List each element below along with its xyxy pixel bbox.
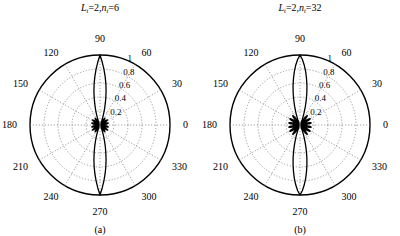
- panel-b-angle-label-0: 0: [383, 119, 388, 130]
- panel-a-grid-spoke-210: [39, 125, 100, 160]
- panel-a-caption: (a): [0, 224, 200, 235]
- panel-b-angle-label-150: 150: [213, 78, 228, 89]
- panel-b-angle-label-210: 210: [213, 161, 228, 172]
- panel-a-angle-label-60: 60: [142, 47, 152, 58]
- panel-a-angle-label-240: 240: [44, 191, 59, 202]
- panel-b-radial-label-0.2: 0.2: [310, 107, 321, 117]
- panel-a-radial-label-0.4: 0.4: [115, 93, 127, 103]
- panel-b: Lt=2,nt=32 03060901201501802102402703003…: [200, 0, 400, 236]
- panel-a-grid-spoke-330: [100, 125, 161, 160]
- panel-a-radial-label-0.2: 0.2: [110, 107, 121, 117]
- panel-a-radial-label-0.6: 0.6: [119, 80, 131, 90]
- panel-a-angle-label-0: 0: [183, 119, 188, 130]
- panel-a-radial-label-0.8: 0.8: [123, 67, 135, 77]
- panel-b-angle-label-330: 330: [372, 161, 387, 172]
- panel-a: Lt=2,nt=6 030609012015018021024027030033…: [0, 0, 200, 236]
- panel-a-polar-plot: 03060901201501802102402703003300.20.40.6…: [0, 18, 200, 218]
- panel-b-radial-label-1: 1: [328, 53, 333, 63]
- panel-b-angle-label-300: 300: [342, 191, 357, 202]
- panel-b-angle-label-60: 60: [342, 47, 352, 58]
- panel-a-angle-label-330: 330: [172, 161, 187, 172]
- panel-a-polar-svg: 03060901201501802102402703003300.20.40.6…: [0, 18, 200, 218]
- panel-a-angle-label-30: 30: [172, 78, 182, 89]
- panel-b-angle-label-90: 90: [295, 33, 305, 44]
- panel-b-angle-label-30: 30: [372, 78, 382, 89]
- figure-polar-beampatterns: Lt=2,nt=6 030609012015018021024027030033…: [0, 0, 400, 236]
- panel-a-angle-label-150: 150: [13, 78, 28, 89]
- panel-b-angle-label-120: 120: [244, 47, 259, 58]
- panel-b-radial-label-0.4: 0.4: [315, 93, 327, 103]
- panel-a-angle-label-210: 210: [13, 161, 28, 172]
- panel-b-angle-label-270: 270: [293, 206, 308, 217]
- panel-a-grid-spoke-30: [100, 90, 161, 125]
- panel-b-polar-svg: 03060901201501802102402703003300.20.40.6…: [200, 18, 400, 218]
- panel-a-grid-spoke-150: [39, 90, 100, 125]
- panel-a-angle-label-270: 270: [93, 206, 108, 217]
- panel-a-angle-label-90: 90: [95, 33, 105, 44]
- panel-b-polar-plot: 03060901201501802102402703003300.20.40.6…: [200, 18, 400, 218]
- panel-a-angle-label-180: 180: [2, 119, 17, 130]
- panel-b-angle-label-240: 240: [244, 191, 259, 202]
- panel-a-angle-label-300: 300: [142, 191, 157, 202]
- panel-a-radial-label-1: 1: [128, 53, 133, 63]
- panel-b-title-text: Lt=2,nt=32: [279, 2, 322, 13]
- panel-a-angle-label-120: 120: [44, 47, 59, 58]
- panel-a-title: Lt=2,nt=6: [0, 2, 200, 13]
- panel-b-angle-label-180: 180: [202, 119, 217, 130]
- panel-b-radial-label-0.8: 0.8: [323, 67, 335, 77]
- panel-b-caption: (b): [200, 224, 400, 235]
- panel-a-title-text: Lt=2,nt=6: [81, 2, 119, 13]
- panel-b-radial-label-0.6: 0.6: [319, 80, 331, 90]
- panel-b-title: Lt=2,nt=32: [200, 2, 400, 13]
